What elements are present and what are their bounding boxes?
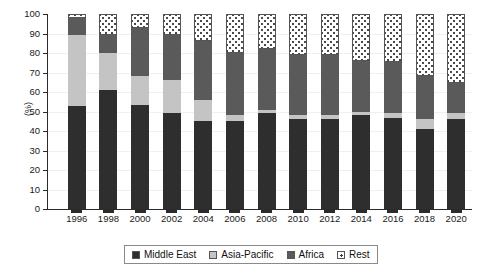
bar-segment-asia-pacific-2010 bbox=[289, 115, 307, 119]
y-tick-label-90: 90 bbox=[7, 29, 40, 39]
bar-2016 bbox=[384, 14, 402, 209]
legend-item-middle-east[interactable]: Middle East bbox=[132, 249, 196, 260]
bar-segment-middle-east-2002 bbox=[163, 113, 181, 209]
bar-segment-asia-pacific-2008 bbox=[258, 110, 276, 114]
y-tick-mark-100 bbox=[43, 14, 47, 15]
y-tick-label-60: 60 bbox=[7, 87, 40, 97]
bar-segment-rest-2010 bbox=[289, 14, 307, 55]
legend-swatch-icon-africa bbox=[287, 251, 295, 259]
bar-segment-middle-east-2010 bbox=[289, 119, 307, 209]
legend-label: Middle East bbox=[144, 249, 196, 260]
bar-2010 bbox=[289, 14, 307, 209]
bar-segment-asia-pacific-2014 bbox=[352, 112, 370, 116]
y-tick-mark-60 bbox=[43, 92, 47, 93]
bar-segment-africa-2012 bbox=[321, 55, 339, 115]
bar-2006 bbox=[226, 14, 244, 209]
bar-segment-rest-2004 bbox=[194, 14, 212, 41]
bar-segment-africa-1996 bbox=[68, 18, 86, 36]
bar-1998 bbox=[99, 14, 117, 209]
y-tick-label-50: 50 bbox=[7, 107, 40, 117]
bar-segment-middle-east-1996 bbox=[68, 106, 86, 209]
bar-segment-africa-1998 bbox=[99, 35, 117, 53]
y-tick-label-80: 80 bbox=[7, 48, 40, 58]
bar-segment-africa-2020 bbox=[447, 83, 465, 113]
chart-legend: Middle EastAsia-PacificAfricaRest bbox=[124, 245, 378, 264]
bar-segment-asia-pacific-1998 bbox=[99, 53, 117, 90]
bar-segment-africa-2008 bbox=[258, 49, 276, 109]
bar-segment-rest-1998 bbox=[99, 14, 117, 35]
legend-item-rest[interactable]: Rest bbox=[337, 249, 370, 260]
y-tick-mark-80 bbox=[43, 53, 47, 54]
bar-segment-rest-2012 bbox=[321, 14, 339, 55]
bar-2004 bbox=[194, 14, 212, 209]
bar-2008 bbox=[258, 14, 276, 209]
bar-segment-middle-east-2012 bbox=[321, 119, 339, 209]
y-tick-mark-20 bbox=[43, 170, 47, 171]
bar-segment-middle-east-2018 bbox=[416, 129, 434, 209]
bar-2020 bbox=[447, 14, 465, 209]
y-tick-mark-90 bbox=[43, 34, 47, 35]
bar-segment-rest-2016 bbox=[384, 14, 402, 62]
bar-segment-asia-pacific-2004 bbox=[194, 100, 212, 121]
bar-segment-middle-east-2016 bbox=[384, 118, 402, 209]
y-tick-label-10: 10 bbox=[7, 185, 40, 195]
y-tick-mark-10 bbox=[43, 190, 47, 191]
bar-segment-middle-east-2008 bbox=[258, 113, 276, 209]
bar-segment-rest-2020 bbox=[447, 14, 465, 83]
legend-item-africa[interactable]: Africa bbox=[287, 249, 325, 260]
y-tick-mark-30 bbox=[43, 151, 47, 152]
bar-segment-africa-2014 bbox=[352, 61, 370, 112]
bar-segment-rest-2002 bbox=[163, 14, 181, 35]
bar-segment-rest-1996 bbox=[68, 14, 86, 18]
bar-segment-africa-2010 bbox=[289, 55, 307, 115]
bar-segment-asia-pacific-2002 bbox=[163, 80, 181, 113]
bar-2000 bbox=[131, 14, 149, 209]
bar-segment-middle-east-2004 bbox=[194, 121, 212, 209]
y-tick-label-100: 100 bbox=[7, 9, 40, 19]
legend-label: Rest bbox=[349, 249, 370, 260]
y-tick-label-30: 30 bbox=[7, 146, 40, 156]
bar-segment-asia-pacific-2016 bbox=[384, 113, 402, 118]
bar-segment-rest-2008 bbox=[258, 14, 276, 49]
bar-2012 bbox=[321, 14, 339, 209]
y-tick-label-70: 70 bbox=[7, 68, 40, 78]
y-tick-mark-40 bbox=[43, 131, 47, 132]
legend-swatch-icon-asia-pacific bbox=[209, 251, 217, 259]
x-tick-label-2020: 2020 bbox=[436, 213, 476, 224]
y-tick-mark-70 bbox=[43, 73, 47, 74]
y-tick-label-40: 40 bbox=[7, 126, 40, 136]
bar-segment-rest-2018 bbox=[416, 14, 434, 76]
bar-segment-middle-east-2006 bbox=[226, 121, 244, 209]
bar-segment-africa-2000 bbox=[131, 28, 149, 77]
legend-swatch-icon-middle-east bbox=[132, 251, 140, 259]
bar-segment-middle-east-2020 bbox=[447, 119, 465, 209]
bar-segment-africa-2006 bbox=[226, 53, 244, 115]
bar-segment-asia-pacific-1996 bbox=[68, 35, 86, 105]
y-tick-mark-50 bbox=[43, 112, 47, 113]
bar-segment-middle-east-1998 bbox=[99, 90, 117, 209]
legend-swatch-icon-rest bbox=[337, 251, 345, 259]
bar-segment-middle-east-2014 bbox=[352, 115, 370, 209]
bar-1996 bbox=[68, 14, 86, 209]
bar-segment-rest-2000 bbox=[131, 14, 149, 28]
legend-item-asia-pacific[interactable]: Asia-Pacific bbox=[209, 249, 273, 260]
bar-segment-africa-2004 bbox=[194, 41, 212, 100]
bar-segment-africa-2002 bbox=[163, 35, 181, 80]
legend-label: Africa bbox=[299, 249, 325, 260]
bar-segment-asia-pacific-2006 bbox=[226, 115, 244, 121]
y-tick-mark-0 bbox=[43, 209, 47, 210]
y-tick-label-20: 20 bbox=[7, 165, 40, 175]
bar-segment-rest-2014 bbox=[352, 14, 370, 61]
bar-segment-africa-2018 bbox=[416, 76, 434, 119]
legend-label: Asia-Pacific bbox=[221, 249, 273, 260]
bar-segment-asia-pacific-2018 bbox=[416, 119, 434, 129]
bar-2002 bbox=[163, 14, 181, 209]
bar-2018 bbox=[416, 14, 434, 209]
plot-area: 0102030405060708090100 19961998200020022… bbox=[47, 14, 472, 210]
bar-2014 bbox=[352, 14, 370, 209]
bar-segment-africa-2016 bbox=[384, 62, 402, 114]
bar-segment-rest-2006 bbox=[226, 14, 244, 53]
bar-segment-asia-pacific-2012 bbox=[321, 115, 339, 119]
bar-segment-asia-pacific-2020 bbox=[447, 113, 465, 119]
bar-segment-asia-pacific-2000 bbox=[131, 76, 149, 104]
